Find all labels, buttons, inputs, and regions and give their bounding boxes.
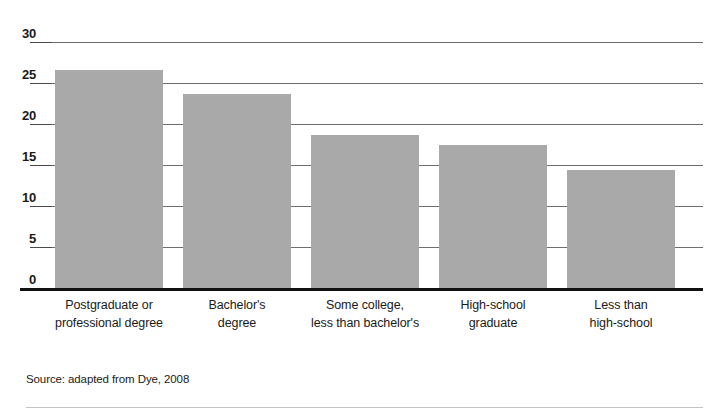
y-axis-tick [30, 165, 52, 166]
bar [311, 135, 419, 288]
y-axis-tick [30, 247, 52, 248]
y-axis-tick-label: 25 [0, 68, 36, 81]
y-axis-tick-label: 20 [0, 109, 36, 122]
category-label: Less than high-school [545, 296, 697, 332]
category-label-line2: high-school [545, 314, 697, 332]
bars-layer [52, 42, 703, 288]
bar-chart-figure: 302520151050 Postgraduate or professiona… [0, 0, 725, 420]
y-axis-tick [30, 42, 52, 43]
y-axis-tick-label: 30 [0, 27, 36, 40]
bar [567, 170, 675, 288]
x-axis-baseline [20, 288, 703, 291]
bar [183, 94, 291, 288]
y-axis-tick-label: 0 [0, 273, 36, 286]
bottom-divider [26, 407, 703, 408]
y-axis-tick-label: 5 [0, 232, 36, 245]
source-note: Source: adapted from Dye, 2008 [26, 373, 189, 385]
category-axis-labels: Postgraduate or professional degree Bach… [52, 296, 703, 344]
y-axis-tick-label: 10 [0, 191, 36, 204]
y-axis-tick-label: 15 [0, 150, 36, 163]
bar [439, 145, 547, 288]
y-axis-tick [30, 83, 52, 84]
y-axis-tick [30, 124, 52, 125]
bar [55, 70, 163, 288]
y-axis-tick [30, 206, 52, 207]
category-label-line1: Less than [545, 296, 697, 314]
